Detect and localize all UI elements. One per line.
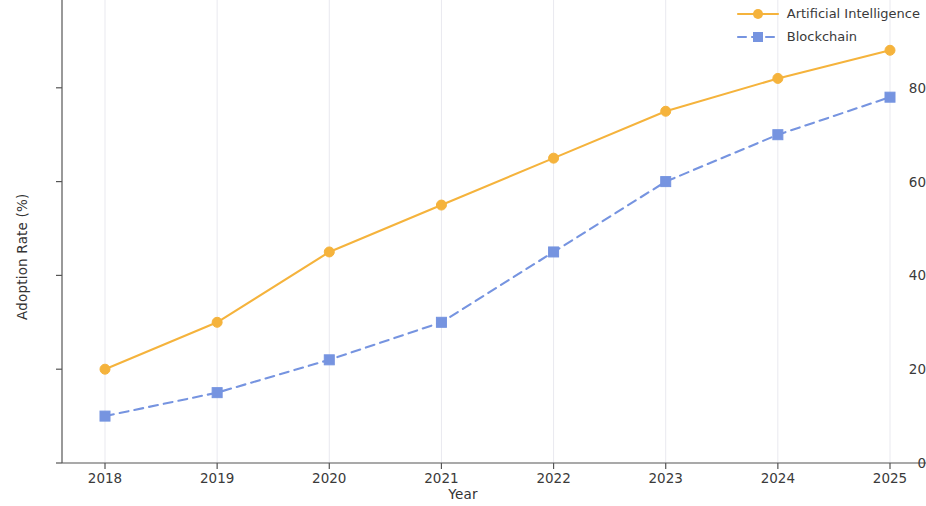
legend-label: Blockchain [787,29,857,44]
line-chart: Adoption Rate (%) Year 020406080100 2018… [0,0,926,506]
legend-label: Artificial Intelligence [787,6,920,21]
axis-ticks [56,0,890,469]
data-point [436,317,446,327]
y-tick-label-40: 40 [868,267,926,283]
legend-item-artificial-intelligence[interactable]: Artificial Intelligence [736,4,920,22]
plot-area: Adoption Rate (%) Year 020406080100 2018… [0,0,926,506]
data-point [100,364,110,374]
series-layer [100,45,895,421]
x-tick-label-2023: 2023 [649,470,683,486]
y-tick-label-80: 80 [868,80,926,96]
series-line [105,97,890,416]
data-point [661,106,671,116]
data-point [885,45,895,55]
x-tick-label-2018: 2018 [88,470,122,486]
data-point [549,153,559,163]
data-point [212,388,222,398]
y-tick-label-20: 20 [868,361,926,377]
x-tick-label-2025: 2025 [873,470,907,486]
data-point [100,411,110,421]
chart-canvas [0,0,926,506]
y-tick-label-0: 0 [868,455,926,471]
data-point [324,355,334,365]
legend-circle-marker-icon [736,6,780,20]
x-tick-label-2021: 2021 [424,470,458,486]
data-point [773,73,783,83]
data-point [773,130,783,140]
data-point [212,317,222,327]
legend-item-blockchain[interactable]: Blockchain [736,27,857,45]
series-artificial-intelligence [100,45,895,374]
x-tick-label-2024: 2024 [761,470,795,486]
y-tick-label-100: 100 [868,0,926,2]
x-tick-label-2022: 2022 [536,470,570,486]
legend-square-marker-icon [736,29,780,43]
series-blockchain [100,92,895,421]
data-point [661,177,671,187]
data-point [549,247,559,257]
data-point [436,200,446,210]
data-point [324,247,334,257]
x-tick-label-2020: 2020 [312,470,346,486]
y-axis-title: Adoption Rate (%) [14,193,30,320]
series-line [105,50,890,369]
x-axis-title: Year [0,486,926,502]
axis-spines [62,0,926,463]
x-tick-label-2019: 2019 [200,470,234,486]
chart-legend: Artificial IntelligenceBlockchain [736,4,920,45]
gridlines [105,0,890,463]
y-tick-label-60: 60 [868,174,926,190]
